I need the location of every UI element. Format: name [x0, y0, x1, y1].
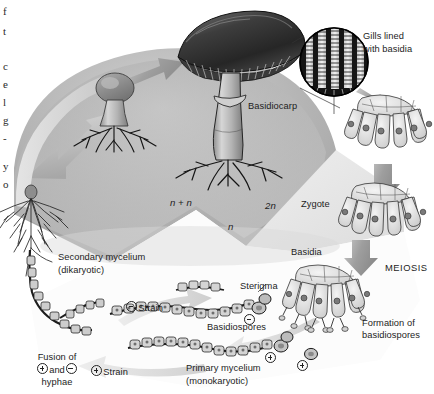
label-zygote: Zygote: [301, 199, 330, 210]
label-fusion-of: Fusion of: [38, 352, 77, 362]
label-monokaryotic: (monokaryotic): [186, 376, 248, 387]
spore-minus-marker: [238, 303, 256, 328]
bleed-letter-3: e: [3, 78, 8, 90]
label-ploidy-dikaryotic: n + n: [170, 197, 192, 208]
fusion-minus-sign-icon: [66, 363, 77, 374]
label-basidiospores: Basidiospores: [207, 322, 266, 333]
spore-plus-sign-icon-2: [297, 360, 308, 371]
bleed-letter-4: l: [3, 96, 6, 108]
label-fusion-hyphae: hyphae: [42, 377, 73, 387]
label-formation-of: Formation of: [362, 318, 415, 329]
bleed-letter-5: g: [3, 114, 9, 126]
label-meiosis: MEIOSIS: [385, 262, 428, 273]
label-primary-mycelium: Primary mycelium: [186, 363, 261, 374]
bleed-letter-0: f: [3, 5, 7, 17]
bleed-letter-8: o: [3, 178, 9, 190]
label-fusion-and: and: [49, 365, 65, 375]
minus-sign-icon: [126, 301, 137, 312]
spore-plus-sign-icon: [265, 352, 276, 363]
bleed-letter-2: c: [3, 60, 8, 72]
label-sterigma: Sterigma: [240, 281, 278, 292]
label-fusion-block: Fusion of and hyphae: [14, 352, 100, 388]
label-gills-lined: Gills lined: [363, 31, 404, 42]
label-ploidy-diploid: 2n: [265, 200, 276, 211]
label-minus-strain: Strain: [120, 290, 163, 315]
label-dikaryotic: (dikaryotic): [58, 265, 104, 276]
label-ploidy-haploid: n: [228, 221, 233, 232]
label-basidia: Basidia: [291, 247, 322, 258]
spore-plus-marker-2: [291, 349, 309, 374]
fusion-plus-sign-icon: [37, 363, 48, 374]
label-basidiospores-formation: basidiospores: [362, 330, 420, 341]
bleed-letter-6: -: [3, 132, 7, 144]
basidium-cluster-zygote: [345, 95, 432, 148]
bleed-letter-1: t: [3, 25, 6, 37]
figure-canvas: f t c e l g - y o Basidiocarp Gills line…: [0, 0, 434, 394]
spore-minus-sign-icon: [244, 314, 255, 325]
label-with-basidia: with basidia: [363, 44, 412, 55]
bleed-letter-7: y: [3, 160, 9, 172]
spore-plus-marker: [259, 341, 277, 366]
label-basidiocarp: Basidiocarp: [248, 101, 297, 112]
label-secondary-mycelium: Secondary mycelium: [58, 252, 145, 263]
